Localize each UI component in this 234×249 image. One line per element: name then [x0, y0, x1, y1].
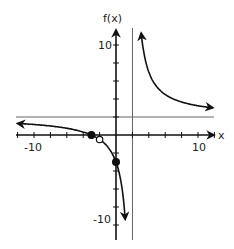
open-point [96, 136, 102, 142]
plot-area: f(x) x -10 10 10 -10 [0, 0, 234, 249]
function-graph: f(x) x -10 10 10 -10 [0, 0, 234, 249]
y-tick-label-neg10: -10 [93, 213, 111, 226]
filled-point [113, 159, 120, 166]
marked-points [88, 132, 119, 166]
x-axis-label: x [218, 129, 225, 142]
filled-point [88, 132, 95, 139]
curve-right-branch [141, 33, 213, 108]
x-tick-label-10: 10 [192, 141, 206, 154]
x-tick-label-neg10: -10 [24, 141, 42, 154]
y-axis-label: f(x) [103, 12, 122, 25]
y-tick-label-10: 10 [98, 39, 112, 52]
